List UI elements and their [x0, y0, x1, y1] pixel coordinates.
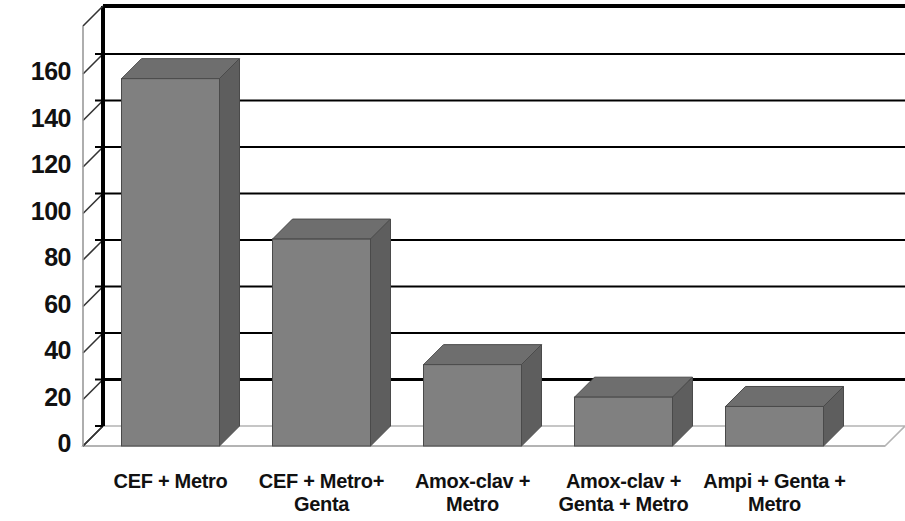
left-wall-connector [83, 194, 103, 214]
bar-front-face [726, 406, 824, 446]
bar-side-face [371, 219, 391, 446]
left-wall-connector [83, 101, 103, 121]
y-axis-tick-label: 20 [44, 383, 71, 412]
left-wall-connector [83, 287, 103, 307]
left-wall-connectors [83, 54, 103, 446]
left-wall-connector [83, 54, 103, 74]
bar-front-face [575, 397, 673, 446]
bar-front-face [424, 365, 522, 446]
bar-column [575, 377, 693, 446]
left-wall-connector [83, 240, 103, 260]
bars-group [122, 59, 844, 446]
bar-chart-figure: 160140120100806040200 CEF + MetroCEF + M… [0, 0, 905, 521]
left-wall-connector [83, 380, 103, 400]
bar-column [424, 345, 542, 446]
y-axis-tick-label: 100 [31, 197, 71, 226]
y-axis-tick-label: 160 [31, 57, 71, 86]
bar-front-face [273, 239, 371, 446]
bar-side-face [220, 59, 240, 446]
top-left-corner-diagonal [83, 6, 103, 26]
chart-canvas [0, 0, 905, 521]
y-axis-tick-label: 120 [31, 150, 71, 179]
bar-column [273, 219, 391, 446]
x-axis-category-label: Ampi + Genta +Metro [685, 470, 865, 516]
left-wall-connector [83, 147, 103, 167]
left-wall-connector [83, 333, 103, 353]
y-axis-tick-label: 40 [44, 336, 71, 365]
y-axis-tick-label: 80 [44, 243, 71, 272]
bar-column [726, 386, 844, 446]
category-label-line: Ampi + Genta + [685, 470, 865, 493]
bar-front-face [122, 79, 220, 446]
y-axis-tick-label: 140 [31, 104, 71, 133]
category-label-line: Metro [685, 493, 865, 516]
y-axis-tick-label: 60 [44, 290, 71, 319]
bar-column [122, 59, 240, 446]
y-axis-tick-label: 0 [58, 429, 71, 458]
